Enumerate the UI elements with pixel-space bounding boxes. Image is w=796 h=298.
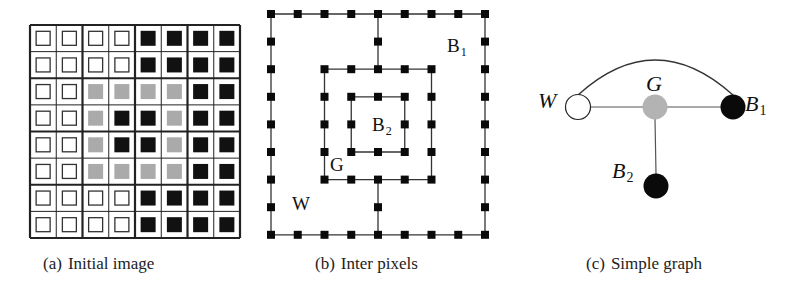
caption-c: (c)Simple graph — [586, 254, 702, 274]
label-main: W — [538, 88, 556, 113]
label-sub: 1 — [759, 103, 766, 118]
region-adjacency-graph — [0, 0, 796, 250]
label-main: G — [646, 71, 662, 96]
node-label-b2: B2 — [612, 160, 633, 185]
label-sub: 2 — [626, 170, 633, 185]
caption-tag: (c) — [586, 254, 605, 273]
node-label-g: G — [646, 73, 662, 95]
caption-text: Initial image — [68, 254, 154, 273]
caption-tag: (b) — [315, 254, 335, 273]
node-label-w: W — [538, 90, 556, 112]
caption-a: (a)Initial image — [43, 254, 154, 274]
node-b2 — [644, 174, 669, 199]
node-b1 — [721, 95, 746, 120]
edge-g-b2 — [655, 119, 656, 174]
node-g — [643, 95, 668, 120]
label-main: B — [745, 91, 758, 116]
label-main: B — [612, 158, 625, 183]
node-w — [566, 95, 591, 120]
caption-tag: (a) — [43, 254, 62, 273]
node-label-b1: B1 — [745, 93, 766, 118]
caption-b: (b)Inter pixels — [315, 254, 418, 274]
caption-text: Simple graph — [611, 254, 702, 273]
caption-text: Inter pixels — [341, 254, 418, 273]
